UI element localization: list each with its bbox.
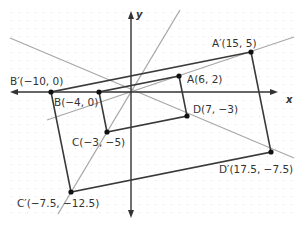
dilation-diagram: x y A(6, 2) B(−4, 0) C(−3, −5) D(7, −3) … (0, 0, 308, 226)
point-b (96, 89, 101, 94)
label-d-prime: D′(17.5, −7.5) (219, 163, 293, 175)
label-b: B(−4, 0) (54, 96, 98, 108)
label-c-prime: C′(−7.5, −12.5) (17, 197, 99, 209)
label-b-prime: B′(−10, 0) (10, 75, 63, 87)
point-b-prime (48, 89, 53, 94)
point-d-prime (268, 149, 273, 154)
label-c: C(−3, −5) (72, 136, 125, 148)
label-d: D(7, −3) (193, 103, 238, 115)
label-a-prime: A′(15, 5) (212, 37, 256, 49)
point-a-prime (248, 49, 253, 54)
point-c (104, 129, 109, 134)
y-axis-label: y (136, 9, 143, 20)
point-a (176, 73, 181, 78)
x-axis-label: x (285, 94, 293, 105)
point-c-prime (68, 189, 73, 194)
label-a: A(6, 2) (187, 73, 222, 85)
point-d (184, 113, 189, 118)
